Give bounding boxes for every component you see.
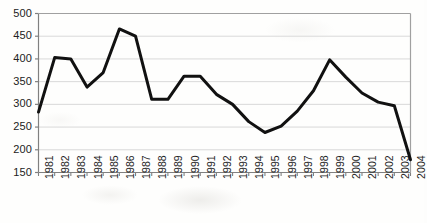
x-axis-tick-label: 2003 bbox=[399, 155, 411, 179]
x-axis-tick-label: 1992 bbox=[221, 155, 233, 179]
x-axis-tick-label: 1984 bbox=[92, 155, 104, 179]
x-axis-tick-label: 1985 bbox=[108, 155, 120, 179]
x-axis-tick-label: 1997 bbox=[302, 155, 314, 179]
x-axis-tick-label: 1999 bbox=[334, 155, 346, 179]
data-series-line bbox=[39, 29, 411, 160]
x-axis-tick-label: 1986 bbox=[124, 155, 136, 179]
x-axis-tick-label: 1996 bbox=[286, 155, 298, 179]
x-axis-tick-label: 1990 bbox=[189, 155, 201, 179]
x-axis-tick-label: 1983 bbox=[75, 155, 87, 179]
x-axis-tick-label: 2002 bbox=[383, 155, 395, 179]
x-axis-tick-label: 1998 bbox=[318, 155, 330, 179]
x-axis-tick-label: 1989 bbox=[172, 155, 184, 179]
x-axis-tick-label: 1995 bbox=[269, 155, 281, 179]
x-axis-tick-label: 1982 bbox=[59, 155, 71, 179]
x-axis-tick-label: 1988 bbox=[156, 155, 168, 179]
x-axis-tick-label: 2001 bbox=[366, 155, 378, 179]
x-axis-tick-label: 1994 bbox=[253, 155, 265, 179]
x-axis-tick-label: 2000 bbox=[350, 155, 362, 179]
x-axis-tick-label: 1981 bbox=[43, 155, 55, 179]
x-axis-tick-label: 1987 bbox=[140, 155, 152, 179]
x-axis-tick-label: 1993 bbox=[237, 155, 249, 179]
x-axis-tick-label: 2004 bbox=[415, 155, 427, 179]
x-axis-tick-label: 1991 bbox=[205, 155, 217, 179]
